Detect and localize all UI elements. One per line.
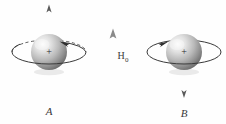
panel-label-b: B bbox=[181, 107, 188, 119]
spin-state-a-group: + A bbox=[12, 5, 86, 118]
charge-symbol-a: + bbox=[46, 46, 52, 57]
spin-state-b-group: + B bbox=[147, 6, 221, 119]
charge-symbol-b: + bbox=[181, 46, 187, 57]
magnetic-field-group: H 0 bbox=[110, 29, 129, 79]
field-label: H bbox=[118, 50, 125, 61]
precession-orbit-back-left-tip-a bbox=[12, 44, 20, 52]
field-label-subscript: 0 bbox=[125, 56, 129, 64]
diagram-canvas: + A H 0 bbox=[0, 0, 226, 124]
panel-label-a: A bbox=[45, 105, 53, 117]
nuclear-spin-diagram: + A H 0 bbox=[0, 0, 226, 124]
